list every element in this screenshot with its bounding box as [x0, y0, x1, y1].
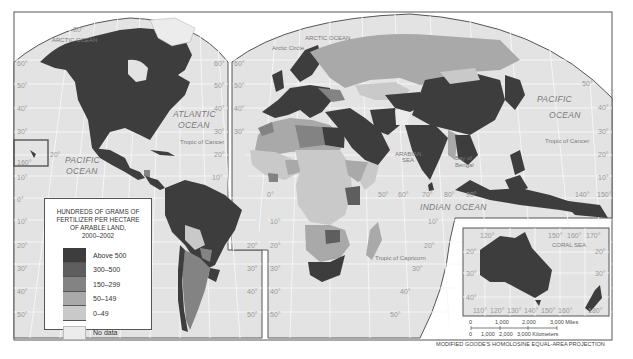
legend-item-150-299: 150–299	[45, 277, 151, 292]
svg-text:160°: 160°	[567, 232, 582, 239]
australia-inset: 120° 150° 160° 170° CORAL SEA 20° 30° 40…	[463, 228, 609, 316]
atlantic-ocean-label-2: OCEAN	[178, 120, 210, 130]
svg-text:30°: 30°	[234, 128, 245, 135]
svg-text:20°: 20°	[424, 242, 435, 249]
svg-text:180°: 180°	[588, 307, 603, 314]
arctic-circle-label: Arctic Circle	[272, 45, 305, 51]
svg-text:20°: 20°	[595, 248, 606, 255]
legend: HUNDREDS OF GRAMS OF FERTILIZER PER HECT…	[44, 198, 152, 330]
svg-text:40°: 40°	[270, 288, 281, 295]
svg-text:60°: 60°	[214, 60, 225, 67]
svg-text:150°: 150°	[541, 307, 556, 314]
svg-text:30°: 30°	[17, 128, 28, 135]
svg-text:0°: 0°	[17, 196, 24, 203]
svg-text:60°: 60°	[234, 60, 245, 67]
svg-text:40°: 40°	[17, 288, 28, 295]
legend-swatch	[63, 248, 86, 263]
legend-swatch	[63, 292, 86, 307]
svg-text:10°: 10°	[428, 218, 439, 225]
indian-ocean-label-2: OCEAN	[455, 202, 487, 212]
svg-text:10°: 10°	[270, 218, 281, 225]
svg-text:50°: 50°	[582, 80, 593, 87]
svg-text:30°: 30°	[466, 270, 477, 277]
legend-swatch	[63, 263, 86, 278]
svg-text:40°: 40°	[17, 105, 28, 112]
bay-of-bengal-label-2: Bengal	[455, 162, 474, 168]
svg-text:10°: 10°	[17, 218, 28, 225]
svg-text:30°: 30°	[247, 265, 258, 272]
svg-text:20°: 20°	[214, 151, 225, 158]
svg-text:10°: 10°	[598, 174, 609, 181]
svg-text:160°: 160°	[558, 307, 573, 314]
indian-ocean-label-1: INDIAN	[420, 202, 451, 212]
svg-text:40°: 40°	[247, 288, 258, 295]
svg-text:140°: 140°	[524, 307, 539, 314]
legend-swatch	[63, 326, 86, 341]
svg-text:30°: 30°	[270, 265, 281, 272]
afghanistan	[395, 110, 410, 125]
legend-item-0-49: 0–49	[45, 306, 151, 321]
svg-text:120°: 120°	[480, 232, 495, 239]
svg-text:20°: 20°	[598, 151, 609, 158]
svg-text:30°: 30°	[595, 270, 606, 277]
svg-text:30°: 30°	[17, 265, 28, 272]
arctic-ocean-label-left: ARCTIC OCEAN	[52, 37, 97, 43]
pacific-ocean-label-left-1: PACIFIC	[65, 155, 101, 165]
svg-text:50°: 50°	[390, 311, 401, 318]
svg-text:30°: 30°	[598, 128, 609, 135]
svg-text:0: 0	[469, 319, 472, 325]
svg-text:1,000: 1,000	[481, 331, 495, 337]
atlantic-ocean-label-1: ATLANTIC	[172, 109, 216, 119]
legend-item-above-500: Above 500	[45, 248, 151, 263]
svg-text:40°: 40°	[234, 105, 245, 112]
svg-text:60°: 60°	[398, 191, 409, 198]
svg-text:30°: 30°	[214, 128, 225, 135]
svg-text:3,000 Kilometers: 3,000 Kilometers	[517, 331, 559, 337]
svg-text:40°: 40°	[598, 104, 609, 111]
svg-text:110°: 110°	[473, 307, 487, 314]
svg-text:50°: 50°	[270, 311, 281, 318]
projection-label: MODIFIED GOODE'S HOMOLOSINE EQUAL-AREA P…	[436, 341, 605, 347]
svg-text:0°: 0°	[267, 191, 274, 198]
legend-items: Above 500 300–500 150–299 50–149 0–49 No…	[45, 248, 151, 340]
svg-text:60°: 60°	[17, 60, 28, 67]
svg-text:50°: 50°	[17, 311, 28, 318]
svg-text:170°: 170°	[586, 232, 601, 239]
svg-text:40°: 40°	[400, 288, 411, 295]
svg-text:50°: 50°	[247, 311, 258, 318]
svg-text:40°: 40°	[214, 105, 225, 112]
svg-text:0: 0	[469, 331, 472, 337]
bay-of-bengal-label-1: Bay of	[455, 155, 472, 161]
svg-text:2,000: 2,000	[499, 331, 513, 337]
svg-text:20°: 20°	[466, 248, 477, 255]
svg-text:70°: 70°	[422, 191, 433, 198]
coral-sea-label: CORAL SEA	[552, 242, 586, 248]
svg-text:50°: 50°	[378, 191, 389, 198]
svg-text:20°: 20°	[50, 151, 61, 158]
svg-text:1,000: 1,000	[495, 319, 509, 325]
arctic-ocean-label-right: ARCTIC OCEAN	[305, 35, 350, 41]
pacific-ocean-label-left-2: OCEAN	[66, 166, 98, 176]
svg-text:10°: 10°	[212, 174, 223, 181]
svg-text:150°: 150°	[548, 232, 563, 239]
svg-text:30°: 30°	[412, 265, 423, 272]
svg-text:50°: 50°	[17, 82, 28, 89]
hawaii-longitude-label: 160°	[17, 159, 32, 166]
libya	[295, 125, 325, 148]
svg-text:40°: 40°	[466, 294, 477, 301]
svg-text:50°: 50°	[214, 82, 225, 89]
legend-item-50-149: 50–149	[45, 292, 151, 307]
svg-text:3,000 Miles: 3,000 Miles	[550, 319, 578, 325]
pacific-ocean-label-right-2: OCEAN	[549, 110, 581, 120]
pacific-ocean-label-right-1: PACIFIC	[537, 94, 573, 104]
zimbabwe	[325, 230, 340, 244]
svg-text:140°: 140°	[575, 191, 590, 198]
svg-text:2,000: 2,000	[522, 319, 536, 325]
legend-title: HUNDREDS OF GRAMS OF FERTILIZER PER HECT…	[45, 208, 151, 240]
svg-text:10°: 10°	[17, 174, 28, 181]
ivory-coast	[268, 173, 278, 182]
legend-swatch	[63, 277, 86, 292]
legend-item-300-500: 300–500	[45, 263, 151, 278]
tropic-of-cancer-label-left: Tropic of Cancer	[180, 139, 224, 145]
svg-text:80°: 80°	[73, 26, 84, 33]
